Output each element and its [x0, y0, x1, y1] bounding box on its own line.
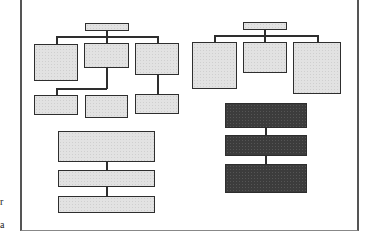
- cropped-text-fragment: a: [0, 220, 4, 230]
- right-child-node-3: [293, 42, 341, 94]
- right-stack-box-2: [225, 135, 307, 156]
- left-stack-box-1: [58, 131, 155, 162]
- cropped-text-fragment: r: [0, 197, 3, 207]
- right-stack-box-3: [225, 164, 307, 193]
- right-child-node-2: [243, 42, 287, 73]
- left-root-node: [85, 23, 129, 31]
- left-stack-box-2: [58, 170, 155, 187]
- left-grandchild-node-1: [34, 95, 78, 115]
- right-stack-box-1: [225, 103, 307, 128]
- left-child-node-1: [34, 44, 78, 81]
- connector: [214, 35, 216, 42]
- connector: [56, 88, 58, 95]
- left-stack-box-3: [58, 196, 155, 213]
- connector: [106, 68, 108, 89]
- connector: [56, 36, 58, 44]
- left-child-node-2: [84, 43, 129, 68]
- connector: [106, 36, 108, 43]
- connector: [264, 35, 266, 42]
- right-child-node-1: [192, 42, 237, 89]
- connector: [317, 35, 319, 42]
- left-child-node-3: [135, 43, 179, 75]
- connector: [265, 156, 267, 164]
- connector: [265, 128, 267, 135]
- right-root-node: [243, 22, 287, 30]
- left-grandchild-node-2: [85, 95, 128, 118]
- left-grandchild-node-3: [135, 94, 179, 114]
- connector: [56, 88, 107, 90]
- connector: [214, 35, 318, 37]
- connector: [106, 162, 108, 170]
- connector: [157, 36, 159, 43]
- connector: [157, 75, 159, 94]
- connector: [106, 187, 108, 196]
